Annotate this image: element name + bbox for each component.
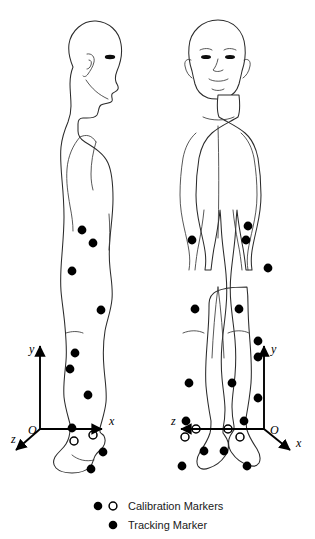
filled-circle-icon <box>109 521 118 530</box>
frontal-y-label: y <box>270 342 277 356</box>
marker-tracking <box>68 267 77 276</box>
marker-tracking <box>254 337 263 346</box>
frontal-x-label: x <box>295 436 302 450</box>
marker-tracking <box>254 394 263 403</box>
marker-tracking <box>188 236 197 245</box>
marker-tracking <box>191 305 200 314</box>
frontal-right-eye <box>225 55 235 59</box>
marker-calibration <box>236 433 244 441</box>
sagittal-origin-label: O <box>28 423 37 437</box>
marker-tracking <box>185 379 194 388</box>
marker-tracking <box>243 462 252 471</box>
filled-circle-icon <box>94 502 103 511</box>
marker-tracking <box>84 391 93 400</box>
marker-tracking <box>71 349 80 358</box>
sagittal-eye <box>105 55 115 59</box>
marker-placement-diagram: y x z O <box>0 0 315 539</box>
marker-tracking <box>240 417 249 426</box>
sagittal-z-label: z <box>10 432 16 446</box>
sagittal-x-label: x <box>108 414 115 428</box>
marker-tracking <box>254 353 263 362</box>
legend-label-calibration: Calibration Markers <box>128 500 224 512</box>
marker-tracking <box>264 264 273 273</box>
legend-row-calibration: Calibration Markers <box>94 500 224 512</box>
marker-tracking <box>87 465 96 474</box>
marker-calibration <box>181 433 189 441</box>
marker-tracking <box>97 306 106 315</box>
legend-label-tracking: Tracking Marker <box>128 519 207 531</box>
frontal-origin-label: O <box>270 423 279 437</box>
sagittal-y-label: y <box>28 342 35 356</box>
frontal-z-label: z <box>170 414 176 428</box>
marker-tracking <box>178 462 187 471</box>
frontal-left-eye <box>201 55 211 59</box>
marker-tracking <box>66 365 75 374</box>
marker-tracking <box>182 417 191 426</box>
marker-tracking <box>99 448 108 457</box>
open-circle-icon <box>109 502 117 510</box>
marker-tracking <box>228 379 237 388</box>
marker-tracking <box>244 222 253 231</box>
marker-tracking <box>200 447 209 456</box>
marker-tracking <box>220 447 229 456</box>
marker-tracking <box>89 239 98 248</box>
marker-calibration <box>70 437 78 445</box>
marker-tracking <box>68 424 77 433</box>
marker-tracking <box>242 236 251 245</box>
frontal-head-outline <box>189 20 246 99</box>
marker-calibration <box>89 431 97 439</box>
marker-tracking <box>235 305 244 314</box>
marker-tracking <box>78 226 87 235</box>
